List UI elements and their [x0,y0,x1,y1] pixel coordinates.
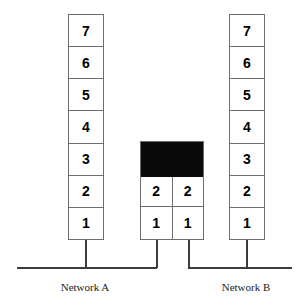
network-a-bus-line [17,267,157,269]
left-stack-drop-line [85,240,87,269]
network-buffer-diagram: 7 6 5 4 3 2 1 2 1 2 1 7 6 5 4 3 2 1 [0,0,308,306]
bridge-port-b-drop-line [188,240,190,268]
bridge-port-b-cell-1: 1 [173,207,204,239]
left-stack-cell-1: 1 [69,208,103,239]
left-stack-cell-3: 3 [69,144,103,176]
left-stack-cell-6: 6 [69,47,103,79]
right-stack-cell-4: 4 [230,111,264,143]
left-stack-cell-7: 7 [69,15,103,47]
right-stack-drop-line [246,240,248,269]
bridge-port-b-cell-2: 2 [173,175,204,208]
right-stack-cell-7: 7 [230,15,264,47]
right-stack-cell-6: 6 [230,47,264,79]
left-stack-cell-2: 2 [69,176,103,208]
bridge-port-a-cell-1: 1 [141,207,172,239]
left-stack-cell-5: 5 [69,79,103,111]
right-stack-network-b: 7 6 5 4 3 2 1 [229,14,265,240]
right-stack-cell-1: 1 [230,208,264,239]
network-b-caption: Network B [196,281,296,293]
left-stack-cell-4: 4 [69,111,103,143]
bridge-port-a-drop-line [156,240,158,268]
right-stack-cell-2: 2 [230,176,264,208]
bridge-port-a-cell-2: 2 [141,175,172,208]
right-stack-cell-5: 5 [230,79,264,111]
unavailable-buffer-band [141,142,203,177]
left-stack-network-a: 7 6 5 4 3 2 1 [68,14,104,240]
right-stack-cell-3: 3 [230,144,264,176]
network-b-bus-line [188,267,292,269]
network-a-caption: Network A [35,281,135,293]
